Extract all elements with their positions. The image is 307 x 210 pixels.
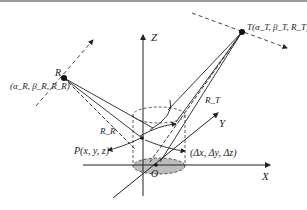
transmitter-range-label: R_T bbox=[204, 95, 221, 105]
receiver-rays bbox=[64, 78, 153, 150]
receiver-coords: (α_R, β_R, R_R) bbox=[10, 81, 70, 91]
cylinder bbox=[133, 107, 185, 166]
transmitter-point bbox=[239, 29, 245, 35]
x-axis-label: X bbox=[261, 170, 270, 182]
diagram-canvas: Z Y X O R (α_R, β_R, R_R) T(α_T, β_T, R_… bbox=[0, 0, 307, 210]
receiver-range-label: R_R bbox=[99, 126, 116, 136]
axes bbox=[83, 35, 270, 198]
receiver-track bbox=[36, 40, 93, 106]
transmitter-rays bbox=[150, 32, 242, 162]
geometry-diagram: Z Y X O R (α_R, β_R, R_R) T(α_T, β_T, R_… bbox=[0, 0, 307, 210]
target-point bbox=[140, 136, 144, 140]
offset-label: (Δx, Δy, Δz) bbox=[190, 147, 237, 159]
origin-point bbox=[154, 163, 158, 167]
origin-label: O bbox=[151, 168, 158, 179]
target-label: P(x, y, z) bbox=[73, 145, 110, 157]
receiver-name: R bbox=[54, 67, 61, 78]
z-axis-label: Z bbox=[151, 31, 158, 43]
transmitter-coords: T(α_T, β_T, R_T) bbox=[247, 22, 307, 32]
y-axis-label: Y bbox=[219, 117, 227, 129]
